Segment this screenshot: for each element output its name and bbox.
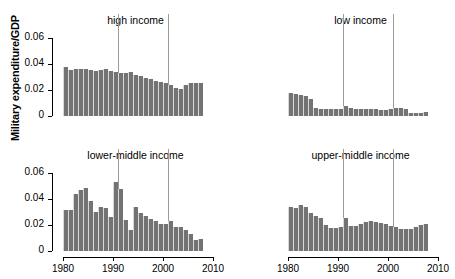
x-tick-label: 2000 bbox=[368, 263, 408, 274]
x-tick bbox=[388, 257, 389, 261]
x-axis-line bbox=[288, 257, 438, 258]
x-tick-label: 2010 bbox=[418, 263, 455, 274]
x-tick-label: 1980 bbox=[268, 263, 308, 274]
x-tick bbox=[438, 257, 439, 261]
x-tick bbox=[338, 257, 339, 261]
panel-bottom-right: upper-middle income1980199020002010 bbox=[0, 0, 455, 279]
x-tick-label: 1990 bbox=[318, 263, 358, 274]
bar-series bbox=[283, 163, 438, 251]
panel-title: upper-middle income bbox=[283, 149, 438, 161]
bar bbox=[423, 224, 428, 251]
figure-canvas: Military expenditure/GDP high income00.0… bbox=[0, 0, 455, 279]
x-tick bbox=[288, 257, 289, 261]
plot-area bbox=[283, 163, 438, 251]
